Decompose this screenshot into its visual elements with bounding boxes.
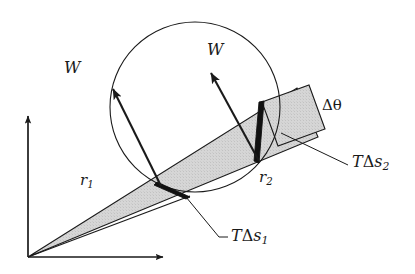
label-r2: r2 xyxy=(259,170,273,187)
label-tension-s1-T: T xyxy=(231,226,242,245)
label-delta-theta-text: Δθ xyxy=(322,96,342,114)
label-r1-subscript: 1 xyxy=(87,179,93,190)
label-tension-s1-subscript: 1 xyxy=(261,234,268,247)
radius-line-r1 xyxy=(28,196,190,257)
label-r1: r1 xyxy=(80,173,94,190)
label-weight-right-text: W xyxy=(207,40,223,59)
label-tension-s2-subscript: 2 xyxy=(382,160,389,173)
label-tension-s1-delta: Δ xyxy=(242,226,254,245)
label-tension-s1: TΔs1 xyxy=(231,228,268,247)
label-tension-s2-delta: Δ xyxy=(363,152,375,171)
label-r2-subscript: 2 xyxy=(266,176,272,187)
physics-diagram-canvas: W W r1 r2 Δθ TΔs1 TΔs2 xyxy=(0,0,415,274)
label-weight-left-text: W xyxy=(64,58,80,77)
label-delta-theta: Δθ xyxy=(322,98,342,113)
weight-vector-left xyxy=(113,89,161,186)
label-tension-s2-T: T xyxy=(352,152,363,171)
label-weight-left: W xyxy=(64,60,80,76)
label-weight-right: W xyxy=(207,42,223,58)
label-tension-s2: TΔs2 xyxy=(352,154,389,173)
leader-line-s1 xyxy=(186,197,228,237)
